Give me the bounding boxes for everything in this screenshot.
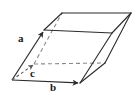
edge-top-front xyxy=(44,30,112,33)
visible-edges-group xyxy=(44,13,131,83)
edge-top-right-depth xyxy=(112,13,131,33)
hidden-edges-group xyxy=(34,13,105,64)
unit-cell-drawing xyxy=(0,0,139,100)
vector-b-arrow xyxy=(12,80,78,83)
vector-label-c: c xyxy=(30,68,35,79)
edge-right-back xyxy=(80,63,105,83)
edge-bottom-back-hidden xyxy=(34,63,105,64)
vector-label-a: a xyxy=(18,33,24,44)
edge-top-left-depth xyxy=(44,13,62,30)
vector-label-b: b xyxy=(50,82,56,93)
unit-cell-figure: a b c xyxy=(0,0,139,100)
